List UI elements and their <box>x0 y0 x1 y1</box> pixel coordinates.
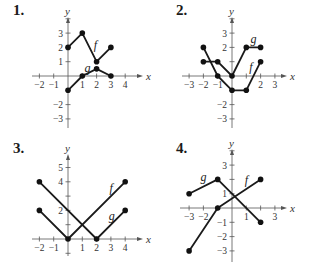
x-tick-label: 2 <box>258 80 263 90</box>
x-tick-label: −2 <box>198 212 208 222</box>
x-tick-label: 4 <box>123 243 128 253</box>
y-axis-label: y <box>64 142 70 154</box>
y-tick-label: 3 <box>222 29 227 39</box>
y-tick-label: −3 <box>53 114 63 124</box>
x-axis-label: x <box>145 70 151 82</box>
y-tick-label: 4 <box>58 177 63 187</box>
x-tick-label: 3 <box>273 80 278 90</box>
series-label: g <box>201 170 207 184</box>
series-label: g <box>251 32 257 46</box>
x-tick-label: −3 <box>184 212 194 222</box>
data-point <box>65 45 71 51</box>
x-tick-label: 1 <box>244 212 249 222</box>
x-tick-label: −2 <box>198 80 208 90</box>
series-g: g <box>65 61 114 93</box>
data-point <box>37 179 43 185</box>
x-arrow-icon <box>137 237 143 241</box>
data-point <box>94 66 100 72</box>
y-tick-label: −2 <box>53 100 63 110</box>
x-axis-label: x <box>289 70 295 82</box>
x-axis-label: x <box>289 202 295 214</box>
x-tick-label: 4 <box>123 80 128 90</box>
x-tick-label: −1 <box>49 80 59 90</box>
data-point <box>108 45 114 51</box>
y-arrow-icon <box>230 17 234 23</box>
graph-number: 2. <box>176 2 187 19</box>
data-point <box>201 59 207 65</box>
graph-1: xy−2−11234−3−2123fg <box>32 5 151 128</box>
data-point <box>258 59 264 65</box>
data-point <box>186 191 192 197</box>
x-tick-label: −2 <box>34 80 44 90</box>
y-tick-label: −3 <box>217 114 227 124</box>
graph-2: xy−3−2−123−3−223gf <box>182 5 295 128</box>
y-tick-label: −3 <box>217 246 227 256</box>
y-tick-label: 1 <box>58 57 63 67</box>
data-point <box>215 177 221 183</box>
x-arrow-icon <box>137 74 143 78</box>
data-point <box>201 45 207 51</box>
data-point <box>80 30 86 36</box>
y-tick-label: −2 <box>217 100 227 110</box>
graph-number: 1. <box>13 2 24 19</box>
series-label: f <box>245 173 250 187</box>
data-point <box>94 236 100 242</box>
series-g: g <box>37 179 128 242</box>
graph-4: xy−3−213−3−2−113gf <box>180 137 295 262</box>
series-f: f <box>65 30 114 64</box>
y-tick-label: 3 <box>222 161 227 171</box>
x-tick-label: −1 <box>213 80 223 90</box>
x-arrow-icon <box>281 206 287 210</box>
graphs-canvas: xy−2−11234−3−2123fgxy−3−2−123−3−223gfxy−… <box>0 0 317 267</box>
data-point <box>215 73 221 79</box>
y-tick-label: 5 <box>58 163 63 173</box>
y-tick-label: 2 <box>58 43 63 53</box>
y-tick-label: 2 <box>58 206 63 216</box>
data-point <box>215 205 221 211</box>
x-tick-label: 3 <box>273 212 278 222</box>
y-axis-label: y <box>228 137 234 149</box>
graph-number: 3. <box>13 140 24 157</box>
x-tick-label: −3 <box>184 80 194 90</box>
data-point <box>258 177 264 183</box>
y-axis-label: y <box>64 5 70 17</box>
x-tick-label: −1 <box>49 243 59 253</box>
y-axis-label: y <box>228 5 234 17</box>
x-tick-label: −2 <box>34 243 44 253</box>
data-point <box>229 88 235 94</box>
data-point <box>258 45 264 51</box>
x-tick-label: 2 <box>94 243 99 253</box>
x-tick-label: 2 <box>94 80 99 90</box>
y-tick-label: 2 <box>222 43 227 53</box>
series-label: g <box>109 209 115 223</box>
data-point <box>65 88 71 94</box>
x-tick-label: 1 <box>80 243 85 253</box>
data-point <box>244 88 250 94</box>
x-tick-label: 3 <box>109 80 114 90</box>
data-point <box>122 208 128 214</box>
series-label: f <box>94 38 99 52</box>
data-point <box>186 248 192 254</box>
y-arrow-icon <box>66 154 70 160</box>
y-tick-label: −2 <box>217 232 227 242</box>
data-point <box>122 179 128 185</box>
y-tick-label: 3 <box>58 29 63 39</box>
data-point <box>94 59 100 65</box>
x-tick-label: 1 <box>80 80 85 90</box>
graph-number: 4. <box>176 140 187 157</box>
x-tick-label: 3 <box>109 243 114 253</box>
data-point <box>65 236 71 242</box>
data-point <box>108 73 114 79</box>
data-point <box>215 59 221 65</box>
x-axis-label: x <box>145 233 151 245</box>
x-arrow-icon <box>281 74 287 78</box>
data-point <box>229 73 235 79</box>
data-point <box>37 208 43 214</box>
data-point <box>258 220 264 226</box>
series-label: f <box>249 60 254 74</box>
y-arrow-icon <box>230 149 234 155</box>
graph-3: xy−2−11234245fg <box>32 142 151 256</box>
series-label: g <box>84 61 90 75</box>
data-point <box>244 45 250 51</box>
y-tick-label: −1 <box>217 218 227 228</box>
